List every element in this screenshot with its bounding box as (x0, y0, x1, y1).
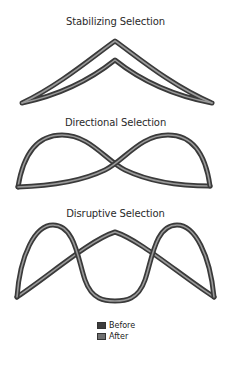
legend-item-before: Before (97, 320, 135, 330)
curve-directional-before (18, 135, 210, 187)
curve-disruptive-after (17, 225, 214, 301)
legend-swatch-before (97, 322, 106, 329)
legend-item-after: After (97, 331, 135, 341)
curve-disruptive-before (17, 232, 214, 297)
legend: Before After (97, 320, 135, 342)
legend-swatch-after (97, 333, 106, 340)
legend-label-before: Before (109, 321, 135, 330)
curve-stabilizing-before (22, 41, 212, 103)
selection-curves (0, 0, 231, 369)
legend-label-after: After (109, 332, 128, 341)
